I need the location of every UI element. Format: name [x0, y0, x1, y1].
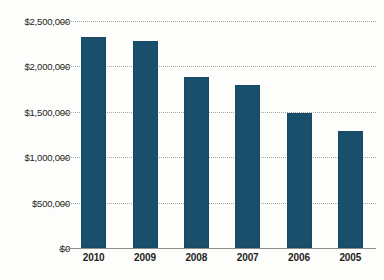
y-axis-tick-label: $1,000,000	[24, 152, 70, 163]
bar-series	[68, 21, 376, 248]
y-axis-labels: $2,500,000 $2,000,000 $1,500,000 $1,000,…	[0, 0, 76, 280]
y-axis-tick-mark	[59, 22, 68, 23]
x-axis-labels: 2010 2009 2008 2007 2006 2005	[68, 252, 376, 274]
x-axis-baseline	[68, 248, 376, 249]
bar	[81, 37, 106, 248]
bar	[133, 41, 158, 248]
bar	[338, 131, 363, 248]
x-axis-tick-label: 2005	[339, 252, 361, 263]
y-axis-tick-label: $500,000	[32, 197, 70, 208]
x-axis-tick-label: 2008	[185, 252, 207, 263]
y-axis-tick-mark	[59, 67, 68, 68]
x-axis-tick-label: 2007	[237, 252, 259, 263]
y-axis-tick-mark	[59, 158, 68, 159]
y-axis-tick-label: $2,500,000	[24, 16, 70, 27]
bar	[235, 85, 260, 248]
bar-chart: $2,500,000 $2,000,000 $1,500,000 $1,000,…	[0, 0, 384, 280]
bar	[184, 77, 209, 248]
y-axis-tick-label: $2,000,000	[24, 61, 70, 72]
bar	[287, 113, 312, 248]
plot-area	[68, 21, 376, 248]
x-axis-tick-label: 2006	[288, 252, 310, 263]
x-axis-tick-label: 2009	[134, 252, 156, 263]
y-axis-tick-mark	[59, 204, 68, 205]
y-axis-tick-label: $1,500,000	[24, 106, 70, 117]
y-axis-tick-mark	[59, 113, 68, 114]
x-axis-tick-label: 2010	[83, 252, 105, 263]
y-axis-tick-mark	[59, 249, 68, 250]
